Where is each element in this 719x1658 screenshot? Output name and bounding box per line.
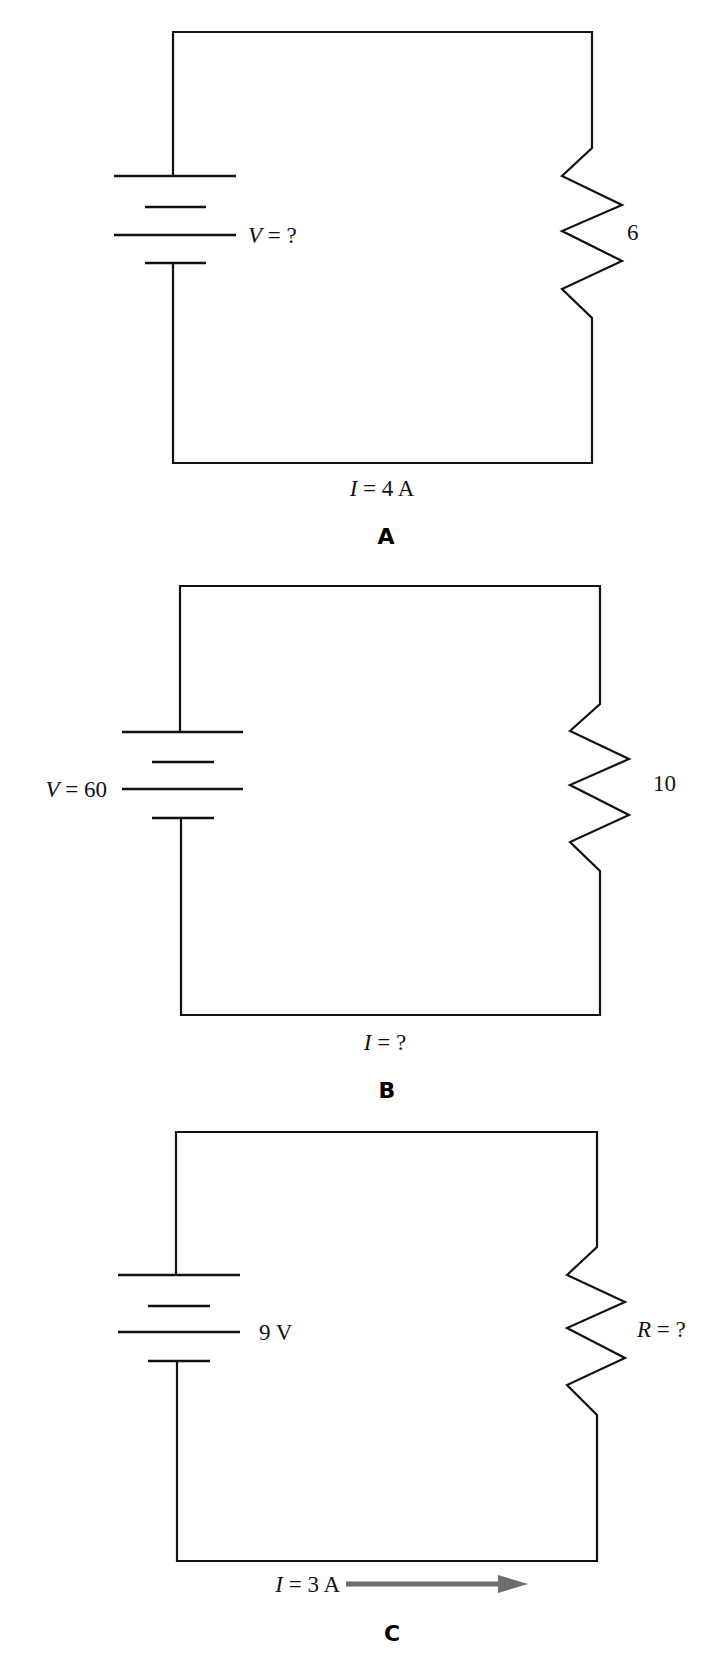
circuit-b-battery-icon	[122, 732, 243, 818]
circuit-c-battery-icon	[118, 1275, 240, 1361]
circuit-b-resistance-label: 10	[653, 771, 676, 796]
circuit-a-resistance-label: 6	[627, 220, 639, 245]
circuit-c-resistance-label: R = ?	[636, 1317, 686, 1342]
circuit-b-caption: B	[379, 1078, 396, 1103]
circuit-b-wire	[180, 586, 629, 1015]
circuit-a-current-label: I = 4 A	[349, 476, 415, 501]
circuit-c: 9 V R = ? I = 3 A C	[118, 1132, 686, 1646]
circuit-c-caption: C	[384, 1621, 400, 1646]
ohms-law-circuits-figure: V = ? 6 I = 4 A A V = 60 10 I = ? B 9 V …	[0, 0, 719, 1658]
circuit-b-voltage-label: V = 60	[45, 777, 107, 802]
circuit-c-current-label: I = 3 A	[274, 1572, 340, 1597]
current-direction-arrow-icon	[346, 1575, 528, 1593]
circuit-b: V = 60 10 I = ? B	[45, 586, 676, 1103]
circuit-b-current-label: I = ?	[363, 1030, 406, 1055]
circuit-a: V = ? 6 I = 4 A A	[114, 32, 639, 549]
circuit-a-battery-icon	[114, 176, 236, 263]
circuit-a-wire	[173, 32, 622, 463]
circuit-c-voltage-label: 9 V	[259, 1320, 293, 1345]
circuit-a-voltage-label: V = ?	[248, 223, 297, 248]
circuit-c-wire	[176, 1132, 625, 1561]
circuit-a-caption: A	[377, 524, 394, 549]
